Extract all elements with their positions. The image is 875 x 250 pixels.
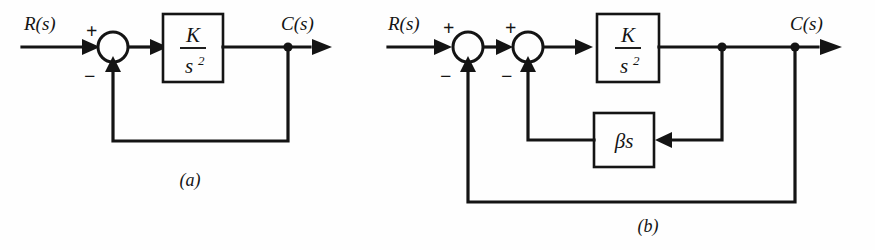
- figure-root: R(s) + − K s 2 C(s) (a) R(s) + − + − K s…: [0, 0, 875, 250]
- caption-b: (b): [638, 216, 659, 237]
- summer-b-inner-plus-sign: +: [505, 17, 516, 39]
- plant-a-denominator: s: [185, 54, 193, 78]
- summer-a-minus-sign: −: [84, 65, 95, 87]
- summer-b-inner-minus-sign: −: [501, 65, 512, 87]
- feedback-block-label: βs: [614, 129, 634, 153]
- plant-b-denominator: s: [620, 54, 628, 78]
- summer-b-outer-minus-sign: −: [440, 65, 451, 87]
- input-label-a: R(s): [23, 13, 56, 35]
- output-label-b: C(s): [790, 13, 823, 35]
- plant-a-numerator: K: [185, 23, 201, 47]
- summer-a-plus-sign: +: [86, 20, 97, 42]
- plant-b-denominator-exponent: 2: [633, 53, 640, 68]
- label-layer: R(s) + − K s 2 C(s) (a) R(s) + − + − K s…: [0, 0, 875, 250]
- plant-a-denominator-exponent: 2: [198, 53, 205, 68]
- caption-a: (a): [180, 170, 201, 191]
- summer-b-outer-plus-sign: +: [443, 17, 454, 39]
- plant-b-numerator: K: [620, 23, 636, 47]
- output-label-a: C(s): [281, 13, 314, 35]
- input-label-b: R(s): [387, 13, 420, 35]
